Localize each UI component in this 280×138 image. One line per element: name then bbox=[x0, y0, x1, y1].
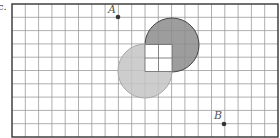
point-label-a: A bbox=[107, 3, 116, 16]
point-a bbox=[116, 15, 121, 20]
grid-figure: c. AB bbox=[0, 0, 280, 138]
point-b bbox=[222, 122, 227, 127]
corner-label: c. bbox=[0, 1, 7, 12]
circles-group bbox=[118, 18, 199, 98]
point-label-b: B bbox=[213, 109, 222, 122]
